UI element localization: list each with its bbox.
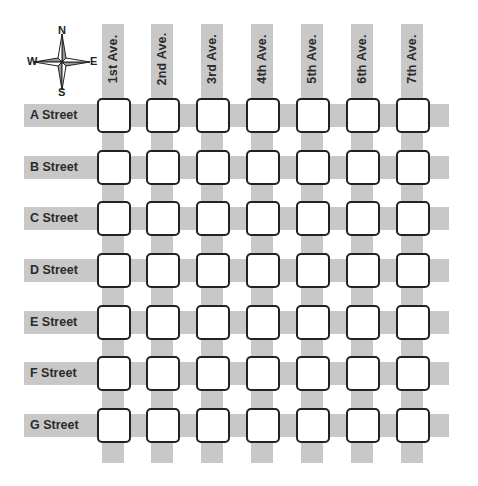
street-label: A Street [30,104,77,127]
city-block [246,253,280,288]
city-block [246,408,280,443]
street-label: C Street [30,207,78,230]
street-label: E Street [30,311,77,334]
city-block [146,305,180,340]
city-block [396,253,430,288]
city-block [346,201,380,236]
city-block [196,201,230,236]
city-block [196,305,230,340]
city-block [296,98,330,133]
city-block [97,150,131,185]
city-block [396,201,430,236]
city-block [146,408,180,443]
city-block [196,408,230,443]
city-block [296,408,330,443]
city-block [146,201,180,236]
avenue-1st: 1st Ave. [102,24,124,463]
city-block [346,150,380,185]
city-block [246,150,280,185]
city-block [97,408,131,443]
city-block [296,201,330,236]
city-block [396,305,430,340]
city-block [346,253,380,288]
city-block [97,305,131,340]
city-block [296,253,330,288]
city-block [196,253,230,288]
compass-north-label: N [58,24,66,36]
avenue-2nd: 2nd Ave. [151,24,173,463]
avenue-label: 1st Ave. [106,35,120,84]
avenue-4th: 4th Ave. [251,24,273,463]
city-block [346,305,380,340]
avenue-label: 6th Ave. [355,34,369,83]
avenue-5th: 5th Ave. [301,24,323,463]
city-block [97,201,131,236]
city-block [396,98,430,133]
avenue-label: 2nd Ave. [155,33,169,86]
street-label: G Street [30,414,79,437]
street-e: E Street [24,311,449,334]
street-label: F Street [30,362,77,385]
city-block [97,356,131,391]
city-block [396,150,430,185]
street-grid-map: N S E W 1st Ave. 2nd Ave. 3rd Ave. 4th A… [0,0,478,486]
street-a: A Street [24,104,449,127]
avenue-7th: 7th Ave. [401,24,423,463]
compass-rose: N S E W [22,22,102,102]
city-block [97,253,131,288]
city-block [246,356,280,391]
street-b: B Street [24,156,449,179]
street-label: B Street [30,156,78,179]
avenue-label: 4th Ave. [255,34,269,83]
city-block [396,356,430,391]
street-f: F Street [24,362,449,385]
compass-east-label: E [90,55,97,67]
city-block [346,356,380,391]
city-block [396,408,430,443]
city-block [296,305,330,340]
street-c: C Street [24,207,449,230]
street-d: D Street [24,259,449,282]
city-block [246,305,280,340]
city-block [146,253,180,288]
avenue-label: 5th Ave. [305,34,319,83]
city-block [296,150,330,185]
avenue-6th: 6th Ave. [351,24,373,463]
city-block [346,408,380,443]
city-block [346,98,380,133]
street-label: D Street [30,259,78,282]
city-block [246,201,280,236]
city-block [97,98,131,133]
avenue-label: 7th Ave. [405,34,419,83]
street-g: G Street [24,414,449,437]
city-block [296,356,330,391]
city-block [196,98,230,133]
city-block [196,356,230,391]
city-block [146,356,180,391]
city-block [196,150,230,185]
city-block [246,98,280,133]
city-block [146,150,180,185]
avenue-label: 3rd Ave. [205,34,219,84]
city-block [146,98,180,133]
avenue-3rd: 3rd Ave. [201,24,223,463]
compass-south-label: S [58,86,65,98]
compass-west-label: W [27,55,37,67]
